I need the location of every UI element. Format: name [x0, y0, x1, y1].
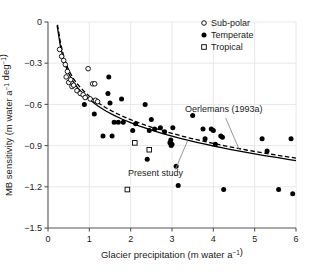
annotation-leaders	[175, 118, 239, 170]
data-point-temperate	[260, 136, 265, 141]
legend-marker-tropical	[202, 45, 207, 50]
y-tick-label: −1.5	[24, 223, 42, 233]
x-tick-label: 2	[128, 234, 133, 244]
y-tick-label: −0.3	[24, 58, 42, 68]
y-tick-label: −0.9	[24, 141, 42, 151]
legend-label-sub-polar: Sub-polar	[211, 18, 250, 28]
scatter-plot: 0123456 0−0.3−0.6−0.9−1.2−1.5 Oerlemans …	[0, 0, 316, 280]
data-point-temperate	[201, 127, 206, 132]
data-point-temperate	[176, 183, 181, 188]
grid-lines	[48, 22, 296, 228]
x-tick-label: 4	[211, 234, 216, 244]
data-point-temperate	[147, 128, 152, 133]
data-point-temperate	[92, 112, 97, 117]
x-tick-label: 5	[252, 234, 257, 244]
data-point-temperate	[108, 101, 113, 106]
data-point-tropical	[133, 141, 138, 146]
legend-marker-sub-polar	[202, 21, 207, 26]
data-point-temperate	[211, 128, 216, 133]
data-point-temperate	[106, 74, 111, 79]
data-point-temperate	[149, 117, 154, 122]
data-point-temperate	[289, 136, 294, 141]
data-point-temperate	[105, 91, 110, 96]
y-tick-label: −0.6	[24, 100, 42, 110]
y-axis-title: MB sensitivity (m water a−1 deg−1)	[0, 54, 14, 196]
x-tick-label: 3	[169, 234, 174, 244]
x-tick-label: 0	[45, 234, 50, 244]
annotation-leader-line	[226, 118, 239, 149]
data-point-temperate	[152, 127, 157, 132]
data-point-temperate	[110, 133, 115, 138]
x-tick-label: 6	[293, 234, 298, 244]
y-tick-label: −1.2	[24, 182, 42, 192]
data-point-temperate	[203, 136, 208, 141]
data-point-tropical	[147, 147, 152, 152]
data-point-temperate	[121, 120, 126, 125]
data-point-sub-polar	[57, 47, 62, 52]
data-point-temperate	[221, 187, 226, 192]
data-point-temperate	[220, 135, 225, 140]
x-axis-title: Glacier precipitation (m water a−1)	[101, 246, 243, 260]
figure-container: 0123456 0−0.3−0.6−0.9−1.2−1.5 Oerlemans …	[0, 0, 316, 280]
annotation-oerlemans-1993a: Oerlemans (1993a)	[185, 104, 263, 114]
data-point-temperate	[133, 121, 138, 126]
data-point-temperate	[213, 142, 218, 147]
legend-label-temperate: Temperate	[211, 30, 254, 40]
annotation-labels: Oerlemans (1993a)Present study	[128, 104, 262, 178]
y-tick-label: 0	[37, 17, 42, 27]
data-point-temperate	[145, 157, 150, 162]
data-point-temperate	[290, 191, 295, 196]
data-point-sub-polar	[86, 66, 91, 71]
data-point-temperate	[130, 128, 135, 133]
legend-marker-temperate	[202, 33, 207, 38]
data-point-sub-polar	[65, 69, 70, 74]
annotation-present-study: Present study	[128, 168, 184, 178]
x-tick-labels: 0123456	[45, 234, 298, 244]
data-point-sub-polar	[71, 83, 76, 88]
axis-ticks	[45, 22, 297, 232]
data-point-sub-polar	[88, 97, 93, 102]
y-tick-labels: 0−0.3−0.6−0.9−1.2−1.5	[24, 17, 42, 233]
data-point-sub-polar	[95, 99, 100, 104]
x-tick-label: 1	[87, 234, 92, 244]
data-point-temperate	[276, 187, 281, 192]
legend: Sub-polarTemperateTropical	[202, 18, 254, 52]
data-point-sub-polar	[68, 77, 73, 82]
data-point-sub-polar	[63, 62, 68, 67]
data-point-sub-polar	[92, 82, 97, 87]
data-point-temperate	[170, 142, 175, 147]
legend-label-tropical: Tropical	[211, 42, 243, 52]
data-point-temperate	[170, 125, 175, 130]
data-point-sub-polar	[64, 75, 69, 80]
data-point-temperate	[100, 133, 105, 138]
data-point-temperate	[265, 149, 270, 154]
data-point-temperate	[158, 125, 163, 130]
data-point-temperate	[82, 102, 87, 107]
data-point-temperate	[162, 129, 167, 134]
data-point-tropical	[125, 187, 130, 192]
data-point-temperate	[119, 96, 124, 101]
data-point-sub-polar	[83, 95, 88, 100]
data-point-temperate	[116, 120, 121, 125]
data-point-temperate	[143, 102, 148, 107]
annotation-leader-line	[175, 140, 187, 169]
